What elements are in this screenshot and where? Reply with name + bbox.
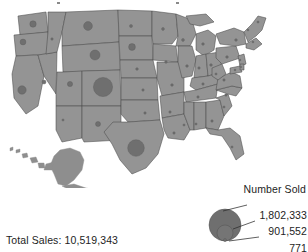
state-symbol bbox=[223, 79, 225, 81]
state-symbol bbox=[231, 146, 233, 148]
state-symbol bbox=[210, 64, 213, 67]
state-symbol bbox=[142, 89, 144, 91]
state-symbol bbox=[136, 68, 139, 71]
state-symbol bbox=[186, 65, 189, 68]
state-symbol bbox=[18, 86, 26, 94]
legend: Number Sold 1,802,333 901,552 771 bbox=[203, 183, 308, 252]
state-symbol bbox=[197, 96, 199, 98]
state-symbol bbox=[20, 39, 26, 45]
state-symbol bbox=[234, 69, 236, 71]
state-symbol bbox=[225, 94, 227, 96]
state-symbol bbox=[169, 111, 171, 113]
state-symbol bbox=[51, 38, 53, 40]
legend-value-large: 1,802,333 bbox=[259, 209, 307, 221]
state-symbol bbox=[247, 29, 249, 31]
state-symbol bbox=[93, 77, 112, 96]
state-symbol bbox=[62, 119, 64, 121]
state-symbol bbox=[183, 124, 185, 126]
state-symbol bbox=[42, 80, 46, 84]
clipped-title-fragment bbox=[57, 2, 179, 4]
state-symbol bbox=[129, 44, 136, 51]
legend-value-small: 771 bbox=[289, 242, 307, 252]
state-symbol bbox=[182, 39, 185, 42]
state-symbol bbox=[202, 43, 205, 46]
state-symbol bbox=[173, 132, 175, 134]
legend-circle-small bbox=[224, 239, 227, 242]
state-symbol bbox=[240, 66, 242, 68]
state-symbol bbox=[202, 83, 204, 85]
state-symbol bbox=[223, 106, 225, 108]
alaska-inset bbox=[44, 148, 96, 188]
state-symbol bbox=[165, 61, 168, 64]
state-symbol bbox=[257, 21, 259, 23]
state-symbol bbox=[67, 81, 72, 86]
legend-leader-large bbox=[223, 205, 247, 211]
state-symbol bbox=[226, 56, 229, 59]
us-map-svg bbox=[0, 2, 308, 188]
state-symbol bbox=[171, 84, 174, 87]
state-symbol bbox=[162, 28, 165, 31]
state-symbol bbox=[144, 112, 146, 114]
legend-title: Number Sold bbox=[244, 183, 306, 195]
state-symbol bbox=[211, 120, 213, 122]
state-symbol bbox=[195, 123, 197, 125]
state-symbol bbox=[84, 22, 93, 31]
state-symbol bbox=[90, 50, 100, 60]
map-figure: Number Sold 1,802,333 901,552 771 Total … bbox=[0, 0, 308, 252]
legend-value-medium: 901,552 bbox=[268, 225, 307, 237]
state-symbol bbox=[30, 21, 36, 27]
state-symbol bbox=[235, 39, 238, 42]
us-map bbox=[0, 2, 308, 188]
state-symbol bbox=[130, 25, 133, 28]
state-symbol bbox=[252, 41, 254, 43]
hawaii-inset bbox=[10, 147, 45, 168]
total-sales-label: Total Sales: 10,519,343 bbox=[6, 234, 118, 246]
state-symbol bbox=[128, 140, 145, 157]
state-symbol bbox=[96, 122, 101, 127]
state-symbol bbox=[215, 73, 217, 75]
state-symbol bbox=[198, 67, 200, 69]
state-symbol bbox=[239, 59, 241, 61]
